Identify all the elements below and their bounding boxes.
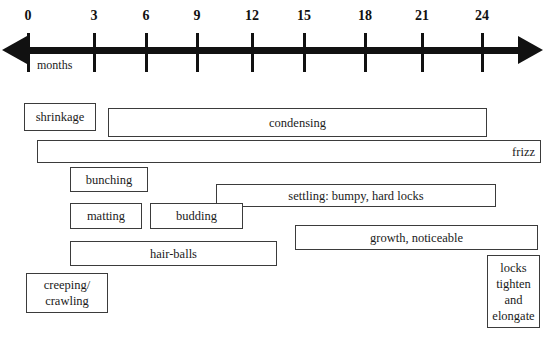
axis-tick-label-9: 9 xyxy=(184,8,210,24)
axis-tick-21 xyxy=(421,33,424,72)
axis-tick-label-12: 12 xyxy=(239,8,265,24)
axis-tick-label-24: 24 xyxy=(469,8,495,24)
axis-unit-label: months xyxy=(37,58,72,73)
phase-label: growth, noticeable xyxy=(370,231,463,245)
axis-tick-0 xyxy=(27,33,30,72)
phase-box-condensing: condensing xyxy=(108,108,487,137)
axis-tick-12 xyxy=(251,33,254,72)
axis-tick-label-21: 21 xyxy=(409,8,435,24)
phase-box-growth-noticeable: growth, noticeable xyxy=(295,225,538,250)
phase-box-bunching: bunching xyxy=(70,167,148,192)
phase-label: hair-balls xyxy=(150,247,197,261)
phase-label: budding xyxy=(176,209,217,223)
axis-tick-label-15: 15 xyxy=(291,8,317,24)
phase-box-locks-tighten-and-elongate: locks tighten and elongate xyxy=(487,255,540,328)
phase-label: matting xyxy=(87,209,125,223)
axis-tick-6 xyxy=(145,33,148,72)
phase-box-frizz: frizz xyxy=(37,140,541,163)
phase-box-budding: budding xyxy=(150,203,243,229)
arrow-left-icon xyxy=(2,36,27,64)
phase-label: condensing xyxy=(269,116,326,130)
arrow-right-icon xyxy=(518,36,543,64)
phase-label: bunching xyxy=(86,173,133,187)
axis-tick-9 xyxy=(196,33,199,72)
axis-tick-label-0: 0 xyxy=(15,8,41,24)
phase-box-creeping-crawling: creeping/ crawling xyxy=(26,273,108,313)
phase-box-settling-bumpy-hard-locks: settling: bumpy, hard locks xyxy=(216,184,496,207)
phase-label: settling: bumpy, hard locks xyxy=(288,189,423,203)
axis-tick-3 xyxy=(93,33,96,72)
axis-tick-label-18: 18 xyxy=(352,8,378,24)
axis-tick-label-3: 3 xyxy=(81,8,107,24)
axis-tick-18 xyxy=(364,33,367,72)
phase-box-hair-balls: hair-balls xyxy=(70,241,277,266)
phase-label: frizz xyxy=(512,145,535,159)
phase-label: locks tighten and elongate xyxy=(492,260,534,324)
phase-label: creeping/ crawling xyxy=(44,277,91,309)
axis-tick-15 xyxy=(303,33,306,72)
phase-label: shrinkage xyxy=(36,110,85,124)
axis-tick-label-6: 6 xyxy=(133,8,159,24)
phase-box-shrinkage: shrinkage xyxy=(24,103,96,131)
axis-tick-24 xyxy=(481,33,484,72)
timeline-axis: 03691215182124 months xyxy=(0,0,547,92)
phase-box-matting: matting xyxy=(70,203,142,229)
